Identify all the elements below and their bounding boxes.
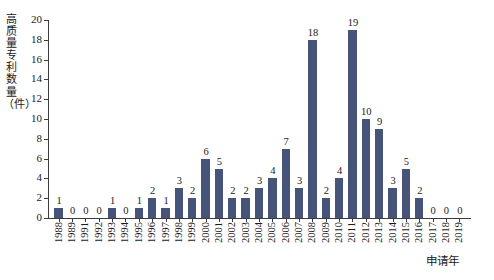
bar-value-label: 18 bbox=[301, 28, 324, 38]
y-axis-tick-label: 0 bbox=[16, 211, 42, 223]
y-axis-tick bbox=[44, 99, 49, 100]
x-axis-tick-label: 2000 bbox=[200, 222, 213, 243]
bar bbox=[228, 198, 236, 218]
x-axis-tick-label: 1989 bbox=[66, 222, 79, 243]
x-axis-tick-label: 2016 bbox=[413, 222, 426, 243]
x-axis-tick-label: 2012 bbox=[360, 222, 373, 243]
bar-value-label: 2 bbox=[408, 186, 431, 196]
y-axis-tick bbox=[44, 60, 49, 61]
x-axis-tick-label: 2003 bbox=[240, 222, 253, 243]
x-axis-tick-label: 2009 bbox=[320, 222, 333, 243]
bar-chart: 高质量专利数量（件） 02468101214161820 11988019890… bbox=[0, 0, 494, 280]
bar bbox=[362, 119, 370, 218]
bar-value-label: 1 bbox=[48, 196, 71, 206]
bar-value-label: 19 bbox=[341, 18, 364, 28]
x-axis-tick-label: 2011 bbox=[346, 222, 359, 243]
y-axis-tick-label: 4 bbox=[16, 171, 42, 183]
x-axis-tick-label: 2013 bbox=[373, 222, 386, 243]
x-axis-tick-label: 2006 bbox=[280, 222, 293, 243]
y-axis-tick-label: 2 bbox=[16, 191, 42, 203]
y-axis-tick-label: 14 bbox=[16, 72, 42, 84]
y-axis-tick bbox=[44, 79, 49, 80]
y-axis-tick bbox=[44, 159, 49, 160]
x-axis-tick-label: 1993 bbox=[106, 222, 119, 243]
y-axis-tick-label: 20 bbox=[16, 13, 42, 25]
x-axis-tick-label: 1997 bbox=[160, 222, 173, 243]
x-axis-tick-label: 1991 bbox=[79, 222, 92, 243]
x-axis-tick-label: 2014 bbox=[387, 222, 400, 243]
x-axis-tick-label: 2008 bbox=[306, 222, 319, 243]
x-axis-tick-label: 2018 bbox=[440, 222, 453, 243]
y-axis-tick-label: 18 bbox=[16, 33, 42, 45]
bar bbox=[135, 208, 143, 218]
bar-value-label: 0 bbox=[448, 206, 471, 216]
bar bbox=[388, 188, 396, 218]
bar-value-label: 1 bbox=[101, 196, 124, 206]
x-axis-tick-label: 1998 bbox=[173, 222, 186, 243]
y-axis-tick-label: 6 bbox=[16, 152, 42, 164]
x-axis-tick-label: 1995 bbox=[133, 222, 146, 243]
x-axis-tick-label: 2017 bbox=[427, 222, 440, 243]
bar bbox=[241, 198, 249, 218]
y-axis-tick-label: 8 bbox=[16, 132, 42, 144]
bar-value-label: 2 bbox=[141, 186, 164, 196]
x-axis-tick-label: 2001 bbox=[213, 222, 226, 243]
bar-value-label: 5 bbox=[395, 157, 418, 167]
y-axis-tick bbox=[44, 40, 49, 41]
bar-value-label: 5 bbox=[208, 157, 231, 167]
bar bbox=[268, 178, 276, 218]
bar-value-label: 10 bbox=[355, 107, 378, 117]
x-axis-title: 申请年 bbox=[426, 252, 459, 268]
x-axis-tick-label: 1994 bbox=[119, 222, 132, 243]
bar bbox=[188, 198, 196, 218]
y-axis-tick-label: 12 bbox=[16, 92, 42, 104]
y-axis-tick bbox=[44, 20, 49, 21]
x-axis-tick-label: 2004 bbox=[253, 222, 266, 243]
x-axis-tick-label: 1988 bbox=[53, 222, 66, 243]
bar bbox=[335, 178, 343, 218]
y-axis-tick bbox=[44, 139, 49, 140]
x-axis-tick-label: 1996 bbox=[146, 222, 159, 243]
x-axis-tick-label: 2007 bbox=[293, 222, 306, 243]
y-axis-tick-label: 10 bbox=[16, 112, 42, 124]
x-axis-tick-label: 1992 bbox=[93, 222, 106, 243]
bar bbox=[255, 188, 263, 218]
bar bbox=[375, 129, 383, 218]
bar-value-label: 3 bbox=[168, 176, 191, 186]
y-axis-tick bbox=[44, 218, 49, 219]
bar-value-label: 7 bbox=[275, 137, 298, 147]
bar-value-label: 6 bbox=[195, 147, 218, 157]
bar bbox=[322, 198, 330, 218]
x-axis-tick-label: 2010 bbox=[333, 222, 346, 243]
bar bbox=[295, 188, 303, 218]
y-axis-tick-label: 16 bbox=[16, 53, 42, 65]
y-axis-tick bbox=[44, 178, 49, 179]
x-axis-tick-label: 2005 bbox=[266, 222, 279, 243]
bar bbox=[348, 30, 356, 218]
x-axis-tick-label: 2002 bbox=[226, 222, 239, 243]
bar bbox=[161, 208, 169, 218]
x-axis-tick-label: 2015 bbox=[400, 222, 413, 243]
x-axis-tick-label: 2019 bbox=[453, 222, 466, 243]
bar bbox=[201, 159, 209, 218]
bar-value-label: 9 bbox=[368, 117, 391, 127]
x-axis-tick-label: 1999 bbox=[186, 222, 199, 243]
y-axis-tick bbox=[44, 119, 49, 120]
